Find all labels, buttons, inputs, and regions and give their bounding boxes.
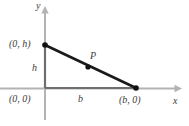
point-right-marker [133, 85, 139, 91]
height-leg-label: h [32, 63, 37, 73]
point-top-marker [42, 42, 48, 48]
y-axis-label: y [36, 1, 40, 11]
vertex-top-label: (0, h) [9, 39, 31, 49]
vertex-origin-label: (0, 0) [9, 94, 31, 104]
diagram-canvas [0, 0, 189, 126]
vertex-right-label: (b, 0) [119, 95, 141, 105]
base-leg-label: b [78, 94, 83, 104]
geometry-figure: y x (0, h) h (0, 0) b (b, 0) P [0, 0, 189, 126]
point-p-label: P [90, 51, 96, 61]
point-p-marker [85, 64, 90, 69]
x-axis-label: x [173, 96, 177, 106]
